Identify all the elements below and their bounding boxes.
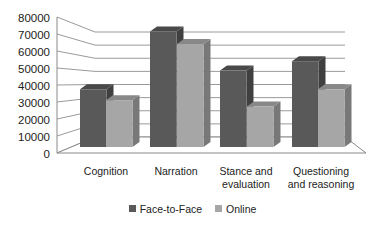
bar-side bbox=[133, 95, 140, 147]
x-category-label: Narration bbox=[136, 165, 216, 178]
legend: Face-to-Face Online bbox=[0, 202, 385, 215]
bar bbox=[177, 44, 204, 147]
y-tick-label: 20000 bbox=[0, 114, 50, 126]
bar-side bbox=[274, 101, 281, 147]
x-category-label: Questioning and reasoning bbox=[276, 165, 366, 191]
bar bbox=[318, 89, 345, 147]
y-tick-label: 50000 bbox=[0, 63, 50, 75]
y-tick-label: 60000 bbox=[0, 46, 50, 58]
bar bbox=[80, 89, 107, 147]
y-tick-label: 30000 bbox=[0, 97, 50, 109]
legend-item-face-to-face: Face-to-Face bbox=[129, 203, 202, 215]
bar bbox=[106, 100, 133, 147]
legend-swatch-icon bbox=[129, 205, 136, 212]
y-tick-label: 40000 bbox=[0, 80, 50, 92]
x-category-label: Stance and evaluation bbox=[206, 165, 286, 191]
bar bbox=[292, 61, 319, 147]
y-tick-label: 10000 bbox=[0, 131, 50, 143]
y-tick-label: 0 bbox=[0, 148, 50, 160]
y-tick-label: 70000 bbox=[0, 29, 50, 41]
bar-side bbox=[345, 84, 352, 147]
chart-area: 80000 70000 60000 50000 40000 30000 2000… bbox=[0, 0, 385, 226]
plot-area bbox=[0, 0, 385, 226]
legend-item-online: Online bbox=[215, 203, 256, 215]
bar bbox=[220, 71, 247, 147]
bar bbox=[150, 32, 177, 147]
x-category-label: Cognition bbox=[66, 165, 146, 178]
bar-side bbox=[204, 39, 211, 147]
legend-swatch-icon bbox=[215, 205, 222, 212]
y-tick-label: 80000 bbox=[0, 12, 50, 24]
bar bbox=[247, 106, 274, 147]
